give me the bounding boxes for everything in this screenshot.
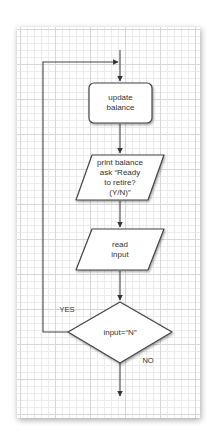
flowchart-canvas — [0, 0, 212, 438]
print-balance-label: print balance ask “Ready to retire? (Y/N… — [80, 158, 160, 198]
no-edge-label: NO — [140, 356, 156, 366]
read-label-line-1: read — [80, 240, 160, 250]
decision-label: input=“N” — [90, 328, 150, 338]
update-label-line-1: update — [89, 93, 152, 103]
read-label-line-2: input — [80, 250, 160, 260]
print-label-line-3: to retire? — [80, 178, 160, 188]
update-label-line-2: balance — [89, 103, 152, 113]
print-label-line-4: (Y/N)” — [80, 188, 160, 198]
print-label-line-1: print balance — [80, 158, 160, 168]
read-input-label: read input — [80, 240, 160, 260]
yes-edge-label: YES — [57, 305, 77, 315]
update-balance-label: update balance — [89, 93, 152, 113]
print-label-line-2: ask “Ready — [80, 168, 160, 178]
